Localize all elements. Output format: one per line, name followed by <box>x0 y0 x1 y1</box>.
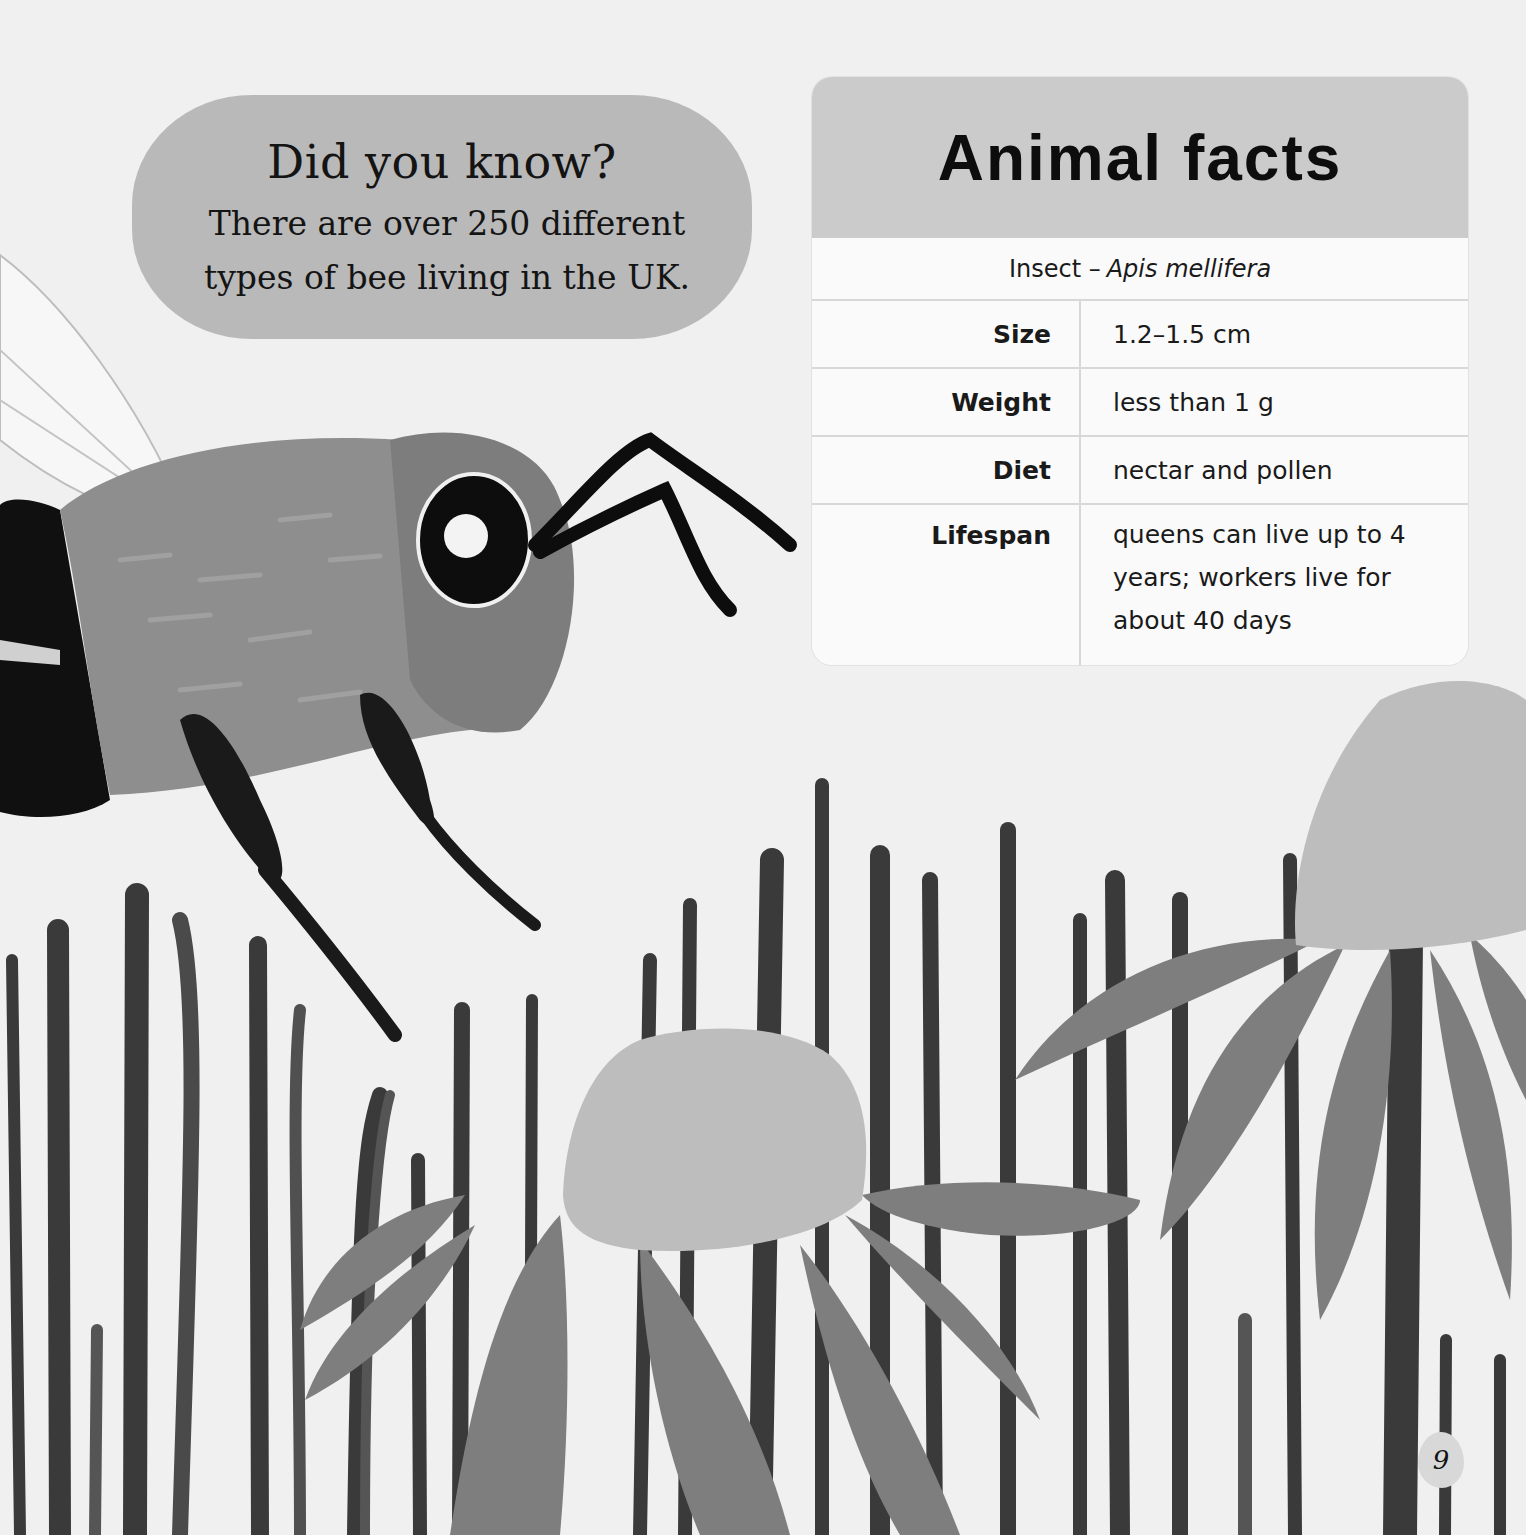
fact-label: Lifespan <box>812 504 1080 665</box>
fact-value: 1.2–1.5 cm <box>1080 301 1468 368</box>
animal-facts-title: Animal facts <box>938 121 1343 195</box>
did-you-know-heading: Did you know? <box>132 135 752 189</box>
facts-table: Size 1.2–1.5 cm Weight less than 1 g Die… <box>812 301 1468 665</box>
bee-icon <box>0 433 790 1036</box>
classification: Insect – Apis mellifera <box>812 238 1468 301</box>
animal-facts-card: Animal facts Insect – Apis mellifera Siz… <box>812 77 1468 665</box>
fact-label: Weight <box>812 368 1080 436</box>
fact-value: less than 1 g <box>1080 368 1468 436</box>
table-row: Weight less than 1 g <box>812 368 1468 436</box>
category: Insect – <box>1009 255 1101 283</box>
table-row: Lifespan queens can live up to 4 years; … <box>812 504 1468 665</box>
table-row: Size 1.2–1.5 cm <box>812 301 1468 368</box>
fact-label: Diet <box>812 436 1080 504</box>
page-number: 9 <box>1418 1432 1464 1488</box>
book-page: Did you know? There are over 250 differe… <box>0 0 1526 1535</box>
species-name: Apis mellifera <box>1107 255 1271 283</box>
fact-value: nectar and pollen <box>1080 436 1468 504</box>
animal-facts-header: Animal facts <box>812 77 1468 238</box>
did-you-know-text: There are over 250 different types of be… <box>172 197 722 305</box>
did-you-know-bubble: Did you know? There are over 250 differe… <box>132 95 752 339</box>
table-row: Diet nectar and pollen <box>812 436 1468 504</box>
fact-value: queens can live up to 4 years; workers l… <box>1080 504 1468 665</box>
fact-label: Size <box>812 301 1080 368</box>
